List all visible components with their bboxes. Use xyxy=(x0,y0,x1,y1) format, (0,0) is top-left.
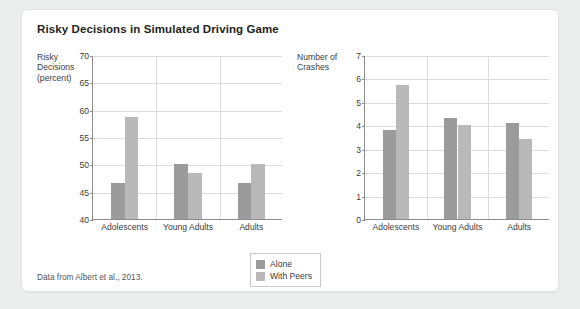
legend-item-alone: Alone xyxy=(256,258,312,270)
y-axis-tick-label: 4 xyxy=(356,121,361,131)
y-axis-tick-label: 0 xyxy=(356,215,361,225)
y-axis-tick-mark xyxy=(90,220,93,221)
category-divider xyxy=(220,56,221,219)
legend-item-with-peers: With Peers xyxy=(256,270,312,282)
y-axis-tick-mark xyxy=(362,79,365,80)
y-axis-tick-label: 45 xyxy=(79,188,89,198)
plot-area-number-of-crashes: 01234567AdolescentsYoung AdultsAdults xyxy=(364,56,549,220)
chart-panel-number-of-crashes: Number of Crashes 01234567AdolescentsYou… xyxy=(292,10,560,250)
y-axis-tick-mark xyxy=(362,126,365,127)
x-axis-label: Adults xyxy=(507,222,531,232)
plot-area-risky-decisions: 40455055606570AdolescentsYoung AdultsAdu… xyxy=(92,56,282,220)
category-divider xyxy=(156,56,157,219)
category-divider xyxy=(488,56,489,219)
y-axis-tick-mark xyxy=(362,173,365,174)
y-axis-tick-mark xyxy=(90,111,93,112)
x-axis-label: Young Adults xyxy=(163,222,213,232)
y-axis-tick-mark xyxy=(362,220,365,221)
y-axis-tick-label: 50 xyxy=(79,160,89,170)
y-axis-tick-label: 5 xyxy=(356,98,361,108)
y-axis-tick-mark xyxy=(90,193,93,194)
figure-card: Risky Decisions in Simulated Driving Gam… xyxy=(21,9,559,292)
y-axis-tick-label: 7 xyxy=(356,51,361,61)
source-note: Data from Albert et al., 2013. xyxy=(37,272,143,282)
y-axis-tick-label: 60 xyxy=(79,106,89,116)
bar-adolescents-alone xyxy=(111,183,125,219)
bar-adolescents-with-peers xyxy=(396,85,409,219)
y-axis-tick-mark xyxy=(362,56,365,57)
legend-swatch-alone xyxy=(256,260,265,269)
bar-young-adults-with-peers xyxy=(188,173,202,219)
gridline xyxy=(93,56,282,57)
y-axis-tick-mark xyxy=(90,165,93,166)
y-axis-tick-label: 1 xyxy=(356,192,361,202)
bar-adolescents-alone xyxy=(383,130,396,219)
y-axis-tick-mark xyxy=(362,103,365,104)
bar-adults-with-peers xyxy=(251,164,265,219)
category-divider xyxy=(427,56,428,219)
bar-adults-alone xyxy=(238,183,252,219)
bar-young-adults-alone xyxy=(444,118,457,219)
gridline xyxy=(365,103,549,104)
bar-young-adults-with-peers xyxy=(458,125,471,219)
bar-young-adults-alone xyxy=(174,164,188,219)
bar-adolescents-with-peers xyxy=(125,117,139,219)
y-axis-tick-label: 40 xyxy=(79,215,89,225)
y-axis-tick-mark xyxy=(90,138,93,139)
gridline xyxy=(93,83,282,84)
y-axis-tick-mark xyxy=(362,150,365,151)
y-axis-tick-mark xyxy=(90,83,93,84)
y-axis-tick-mark xyxy=(362,197,365,198)
gridline xyxy=(365,56,549,57)
y-axis-tick-label: 70 xyxy=(79,51,89,61)
y-axis-tick-label: 65 xyxy=(79,78,89,88)
y-axis-tick-label: 6 xyxy=(356,74,361,84)
bar-adults-alone xyxy=(506,123,519,219)
x-axis-label: Adolescents xyxy=(372,222,419,232)
legend: Alone With Peers xyxy=(250,253,321,287)
x-axis-label: Adults xyxy=(239,222,263,232)
y-axis-tick-label: 3 xyxy=(356,145,361,155)
chart-panel-risky-decisions: Risky Decisions (percent) 40455055606570… xyxy=(22,10,292,250)
y-axis-tick-label: 2 xyxy=(356,168,361,178)
gridline xyxy=(93,111,282,112)
y-axis-tick-label: 55 xyxy=(79,133,89,143)
x-axis-label: Young Adults xyxy=(433,222,483,232)
gridline xyxy=(93,138,282,139)
y-axis-title-right: Number of Crashes xyxy=(297,52,355,73)
legend-label-alone: Alone xyxy=(270,259,292,269)
y-axis-tick-mark xyxy=(90,56,93,57)
bar-adults-with-peers xyxy=(519,139,532,219)
legend-label-with-peers: With Peers xyxy=(270,271,312,281)
x-axis-label: Adolescents xyxy=(101,222,148,232)
legend-swatch-with-peers xyxy=(256,272,265,281)
gridline xyxy=(365,79,549,80)
